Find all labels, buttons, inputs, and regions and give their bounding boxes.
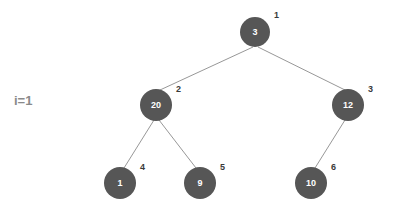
tree-diagram-canvas: 312021231495106 i=1: [0, 0, 394, 213]
tree-edge: [159, 120, 196, 168]
tree-node[interactable]: 10: [295, 167, 327, 199]
tree-edge: [160, 47, 253, 90]
tree-node-index-label: 2: [176, 85, 181, 94]
tree-edge: [124, 120, 154, 168]
tree-node[interactable]: 12: [332, 89, 364, 121]
tree-edge: [315, 120, 345, 168]
tree-node-index-label: 6: [331, 163, 336, 172]
tree-node-index-label: 4: [140, 163, 145, 172]
tree-node-index-label: 5: [220, 163, 225, 172]
tree-node[interactable]: 3: [240, 17, 270, 47]
tree-node-index-label: 3: [368, 85, 373, 94]
tree-node[interactable]: 9: [184, 167, 216, 199]
tree-node-index-label: 1: [274, 11, 279, 20]
tree-node[interactable]: 20: [140, 89, 172, 121]
iteration-label: i=1: [14, 93, 32, 108]
tree-node[interactable]: 1: [104, 167, 136, 199]
tree-edge: [258, 47, 345, 90]
